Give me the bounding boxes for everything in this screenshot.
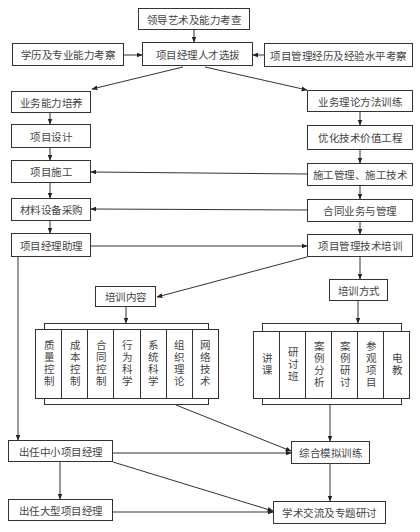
- left-box-label: 项目施工: [30, 164, 72, 179]
- left-box-1: 业务能力培养: [11, 91, 91, 113]
- training-methods-label: 培训方式: [338, 283, 380, 298]
- training-content-item: 合同控制: [88, 330, 114, 398]
- left-box-label: 业务能力培养: [20, 95, 83, 110]
- training-content-group: 质量控制 成本控制 合同控制 行为科学 系统科学 组织理论 网络技术: [35, 329, 219, 399]
- right-box-label: 合同业务与管理: [323, 203, 397, 218]
- training-methods-box: 培训方式: [329, 279, 388, 301]
- simulation-label: 综合模拟训练: [299, 445, 362, 460]
- left-box-label: 项目设计: [30, 129, 72, 144]
- training-content-box: 培训内容: [95, 286, 156, 307]
- leadership-assessment-label: 领导艺术及能力考查: [147, 12, 242, 27]
- right-box-2: 优化技术价值工程: [307, 125, 413, 150]
- right-box-3: 施工管理、施工技术: [307, 163, 413, 186]
- education-assessment-box: 学历及专业能力考察: [12, 43, 124, 66]
- training-method-item: 参观项目: [358, 332, 384, 398]
- pm-selection-box: 项目经理人才选拔: [142, 42, 253, 66]
- education-assessment-label: 学历及专业能力考察: [21, 47, 116, 62]
- left-box-3: 项目施工: [11, 160, 91, 183]
- large-pm-box: 出任大型项目经理: [8, 499, 113, 521]
- training-method-item: 电教: [384, 332, 409, 398]
- right-box-label: 优化技术价值工程: [318, 130, 402, 145]
- training-method-item: 案例分析: [306, 332, 332, 398]
- right-box-label: 施工管理、施工技术: [313, 167, 408, 182]
- right-box-label: 业务理论方法训练: [318, 94, 402, 109]
- academic-exchange-box: 学术交流及专题研讨: [273, 501, 386, 524]
- training-content-item: 网络技术: [193, 330, 218, 398]
- training-content-item: 行为科学: [114, 330, 140, 398]
- pm-selection-label: 项目经理人才选拔: [156, 47, 240, 62]
- simulation-box: 综合模拟训练: [291, 441, 370, 464]
- training-method-item: 研讨班: [280, 332, 306, 398]
- training-content-item: 质量控制: [36, 330, 62, 398]
- left-box-4: 材料设备采购: [11, 198, 91, 221]
- training-content-label: 培训内容: [105, 289, 147, 304]
- right-box-1: 业务理论方法训练: [307, 90, 413, 112]
- leadership-assessment-box: 领导艺术及能力考查: [138, 8, 250, 30]
- training-method-item: 案例研讨: [332, 332, 358, 398]
- left-box-5: 项目经理助理: [11, 233, 91, 257]
- experience-assessment-box: 项目管理经历及经验水平考察: [264, 43, 413, 67]
- training-content-item: 系统科学: [141, 330, 167, 398]
- left-box-label: 材料设备采购: [20, 202, 83, 217]
- large-pm-label: 出任大型项目经理: [19, 503, 103, 518]
- experience-assessment-label: 项目管理经历及经验水平考察: [270, 48, 407, 63]
- left-box-label: 项目经理助理: [20, 238, 83, 253]
- academic-exchange-label: 学术交流及专题研讨: [282, 505, 377, 520]
- left-box-2: 项目设计: [11, 124, 91, 148]
- small-pm-label: 出任中小项目经理: [19, 444, 103, 459]
- right-box-label: 项目管理技术培训: [318, 238, 402, 253]
- training-methods-group: 讲课 研讨班 案例分析 案例研讨 参观项目 电教: [253, 331, 410, 399]
- training-content-item: 组织理论: [167, 330, 193, 398]
- training-content-item: 成本控制: [62, 330, 88, 398]
- training-method-item: 讲课: [254, 332, 280, 398]
- right-box-4: 合同业务与管理: [307, 199, 413, 222]
- right-box-5: 项目管理技术培训: [307, 234, 413, 257]
- small-pm-box: 出任中小项目经理: [8, 440, 113, 462]
